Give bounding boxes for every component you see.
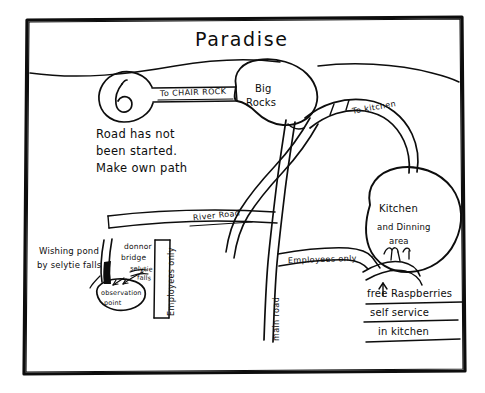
place-label-big-rocks-line2: Rocks [246, 97, 276, 109]
annotation-road-note-line2: been started. [96, 145, 177, 159]
background-ridge-lines [30, 60, 459, 82]
hand-drawn-map: Paradise To CHAIR ROCK Big Rocks To kitc… [0, 0, 485, 393]
map-frame-border [24, 17, 465, 374]
annotation-pond-note-line2: by selytie falls [37, 260, 101, 270]
annotation-road-note-line3: Make own path [96, 162, 187, 176]
chair-rock-label-rule [158, 99, 233, 100]
annotation-raspberry-line2: self service [370, 307, 429, 319]
map-title: Paradise [195, 28, 288, 50]
place-label-kitchen-line3: area [389, 236, 409, 246]
chair-rock-loop [99, 72, 153, 122]
place-label-kitchen-line1: Kitchen [379, 203, 418, 215]
river-stream [226, 118, 318, 258]
road-label-employees-only-vertical: Employees only [167, 247, 176, 316]
annotation-road-note-line1: Road has not [96, 128, 175, 142]
annotation-pond-note-line1: Wishing pond [39, 246, 99, 256]
annotation-bridge-note-line4: falls [137, 275, 152, 283]
annotation-raspberry-line3: in kitchen [378, 326, 429, 338]
place-label-kitchen-line2: and Dinning [377, 222, 431, 232]
place-label-observation-point-line2: point [104, 300, 122, 308]
road-label-main-road: main road [272, 297, 281, 341]
annotation-bridge-note-line1: donnor [124, 243, 152, 252]
place-label-observation-point-line1: observation [101, 290, 142, 298]
annotation-raspberry-line1: free Raspberries [367, 288, 452, 300]
place-label-big-rocks-line1: Big [255, 83, 272, 95]
kitchen-blob [366, 167, 461, 272]
annotation-bridge-note-line2: bridge [121, 254, 146, 263]
